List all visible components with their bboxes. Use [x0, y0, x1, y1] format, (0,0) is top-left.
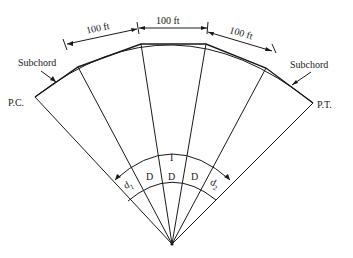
curve-diagram: Subchord Subchord P.C. P.T. 100 ft 100 f…	[0, 0, 353, 258]
label-subchord-left: Subchord	[18, 57, 56, 68]
label-pc: P.C.	[8, 97, 24, 108]
chords	[35, 44, 313, 103]
radius-3	[172, 44, 206, 244]
label-chord1: 100 ft	[85, 20, 111, 36]
label-total-angle: I	[170, 152, 173, 163]
label-D3: D	[191, 171, 198, 182]
curve-arc	[35, 45, 313, 103]
label-chord2: 100 ft	[156, 15, 180, 26]
label-d1: d1	[122, 177, 136, 193]
label-D2: D	[168, 171, 175, 182]
label-d2: d2	[207, 176, 222, 193]
label-pt: P.T.	[317, 99, 332, 110]
label-subchord-right: Subchord	[290, 59, 328, 70]
label-D1: D	[146, 171, 153, 182]
